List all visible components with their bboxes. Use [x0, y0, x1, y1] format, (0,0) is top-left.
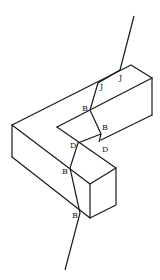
- label-b-3: B: [62, 167, 68, 176]
- block-bottom-edge: [12, 157, 90, 218]
- label-b-1: B: [82, 104, 88, 113]
- label-d-2: D: [102, 145, 108, 154]
- block-right-bottom-edge: [101, 115, 152, 140]
- arm-inner-edge: [57, 78, 152, 127]
- label-b-2: B: [102, 123, 108, 132]
- l-block-diagram: J J B B D D B B: [0, 0, 160, 280]
- block-top-front-edge: [12, 125, 90, 184]
- block-top-back-edge: [12, 65, 152, 125]
- label-d-1: D: [70, 141, 76, 150]
- label-j-2: J: [99, 82, 103, 91]
- block-end-face: [90, 168, 116, 218]
- label-b-4: B: [72, 211, 78, 220]
- label-j-1: J: [118, 73, 122, 82]
